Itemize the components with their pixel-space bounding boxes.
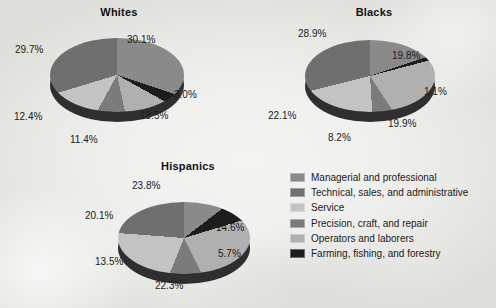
- pie-label-hispanics-operators: 22.3%: [155, 280, 183, 291]
- pie-label-whites-precision: 11.4%: [70, 134, 98, 145]
- pie-label-blacks-technical: 28.9%: [298, 28, 326, 39]
- figure-canvas: Whites 30.1% 29.7% 12.4% 11.4% 13.5% 3.0…: [0, 0, 496, 308]
- pie-label-whites-farming: 3.0%: [174, 89, 197, 100]
- pie-slices-hispanics: [118, 202, 250, 274]
- legend-item-farming: Farming, fishing, and forestry: [290, 246, 468, 261]
- legend-swatch-operators: [290, 234, 305, 243]
- pie-label-blacks-precision: 8.2%: [328, 132, 351, 143]
- pie-label-hispanics-managerial: 14.6%: [216, 222, 244, 233]
- legend-item-managerial: Managerial and professional: [290, 170, 468, 185]
- pie-chart-hispanics: Hispanics 14.6% 23.8% 20.1% 13.5% 22.3% …: [96, 160, 304, 305]
- legend-label-managerial: Managerial and professional: [311, 172, 437, 183]
- legend-swatch-managerial: [290, 173, 305, 182]
- pie-label-blacks-operators: 19.9%: [388, 118, 416, 129]
- legend-label-farming: Farming, fishing, and forestry: [311, 248, 441, 259]
- pie-label-hispanics-farming: 5.7%: [218, 248, 241, 259]
- pie-slices-whites: [50, 38, 184, 112]
- legend-label-precision: Precision, craft, and repair: [311, 218, 428, 229]
- pie-label-whites-operators: 13.5%: [140, 110, 168, 121]
- pie-label-blacks-managerial: 19.8%: [392, 50, 420, 61]
- chart-title-whites: Whites: [14, 6, 224, 18]
- pie-label-whites-technical: 29.7%: [15, 44, 43, 55]
- pie-chart-whites: Whites 30.1% 29.7% 12.4% 11.4% 13.5% 3.0…: [14, 6, 224, 151]
- pie-graphic-hispanics: [118, 198, 250, 294]
- chart-title-hispanics: Hispanics: [88, 160, 288, 172]
- legend-label-operators: Operators and laborers: [311, 233, 414, 244]
- pie-label-blacks-service: 22.1%: [268, 110, 296, 121]
- legend-swatch-farming: [290, 249, 305, 258]
- legend-swatch-technical: [290, 188, 305, 197]
- pie-label-whites-managerial: 30.1%: [127, 34, 155, 45]
- legend-label-service: Service: [311, 202, 344, 213]
- legend-item-precision: Precision, craft, and repair: [290, 216, 468, 231]
- legend-item-service: Service: [290, 200, 468, 215]
- legend-swatch-service: [290, 203, 305, 212]
- pie-label-hispanics-technical: 23.8%: [132, 180, 160, 191]
- legend: Managerial and professional Technical, s…: [290, 170, 468, 261]
- chart-title-blacks: Blacks: [268, 6, 480, 18]
- legend-item-technical: Technical, sales, and administrative: [290, 185, 468, 200]
- pie-label-hispanics-service: 20.1%: [85, 210, 113, 221]
- legend-swatch-precision: [290, 219, 305, 228]
- legend-label-technical: Technical, sales, and administrative: [311, 187, 468, 198]
- pie-chart-blacks: Blacks 19.8% 28.9% 22.1% 8.2% 19.9% 1.1%: [268, 6, 480, 151]
- legend-item-operators: Operators and laborers: [290, 231, 468, 246]
- pie-label-whites-service: 12.4%: [14, 111, 42, 122]
- pie-label-blacks-farming: 1.1%: [424, 86, 447, 97]
- pie-label-hispanics-precision: 13.5%: [95, 256, 123, 267]
